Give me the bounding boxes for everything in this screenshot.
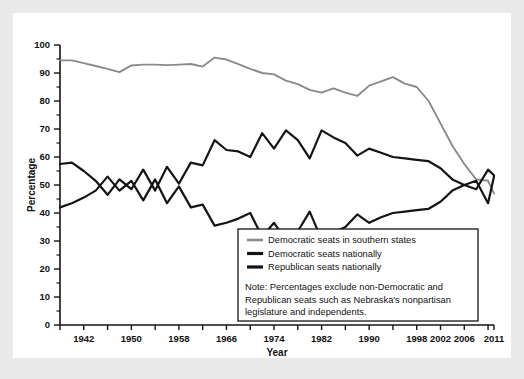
series-line [60, 58, 494, 194]
chart-panel: 0102030405060708090100 19421950195819661… [13, 13, 511, 358]
x-tick-label: 1982 [311, 333, 332, 344]
x-axis-title: Year [266, 347, 287, 358]
legend-label: Democratic seats in southern states [268, 235, 416, 245]
chart-page: 0102030405060708090100 19421950195819661… [0, 0, 524, 379]
note-line: legislature and independents. [245, 307, 366, 317]
x-tick-label: 1958 [168, 333, 189, 344]
data-series-group [60, 58, 494, 240]
legend-label: Republican seats nationally [268, 262, 382, 272]
y-tick-label: 20 [39, 263, 50, 274]
x-tick-label: 1966 [216, 333, 237, 344]
y-tick-label: 10 [39, 291, 50, 302]
legend-label: Democratic seats nationally [268, 249, 382, 259]
y-tick-label: 60 [39, 151, 50, 162]
x-tick-label: 1974 [263, 333, 285, 344]
x-axis-tick-labels: 1942195019581966197419821990199820022006… [73, 333, 505, 344]
line-chart: 0102030405060708090100 19421950195819661… [13, 13, 511, 358]
y-tick-label: 100 [34, 39, 50, 50]
x-tick-label: 1990 [359, 333, 380, 344]
y-tick-label: 80 [39, 95, 50, 106]
x-tick-label: 1998 [406, 333, 427, 344]
x-tick-label: 2011 [484, 333, 505, 344]
y-axis-ticks [54, 45, 60, 325]
note-line: Note: Percentages exclude non-Democratic… [245, 282, 443, 292]
note-line: Republican seats such as Nebraska's nonp… [245, 295, 451, 305]
y-tick-label: 70 [39, 123, 50, 134]
y-tick-label: 30 [39, 235, 50, 246]
y-tick-label: 50 [39, 179, 50, 190]
x-tick-label: 2002 [430, 333, 451, 344]
y-tick-label: 90 [39, 67, 50, 78]
x-tick-label: 2006 [454, 333, 475, 344]
y-tick-label: 0 [45, 319, 50, 330]
y-tick-label: 40 [39, 207, 50, 218]
x-tick-label: 1950 [121, 333, 142, 344]
x-tick-label: 1942 [73, 333, 94, 344]
y-axis-title: Percentage [26, 158, 37, 212]
legend-box: Democratic seats in southern statesDemoc… [238, 229, 478, 321]
